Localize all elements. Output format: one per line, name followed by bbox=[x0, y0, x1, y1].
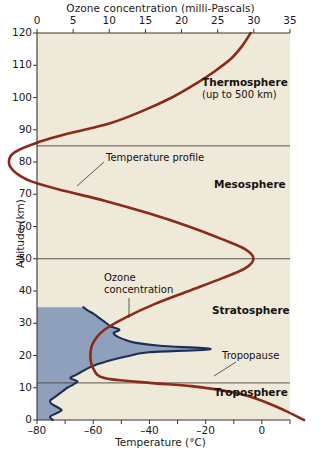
bottom-tick-label-0: –80 bbox=[23, 424, 51, 436]
left-tick-label-6: 60 bbox=[2, 220, 32, 232]
left-tick-label-0: 0 bbox=[2, 413, 32, 425]
bottom-tick-label-4: 0 bbox=[248, 424, 276, 436]
top-tick-label-1: 5 bbox=[61, 14, 85, 26]
top-tick-label-7: 35 bbox=[278, 14, 302, 26]
top-tick-label-6: 30 bbox=[242, 14, 266, 26]
left-tick-label-5: 50 bbox=[2, 252, 32, 264]
left-tick-label-1: 10 bbox=[2, 381, 32, 393]
left-tick-label-2: 20 bbox=[2, 349, 32, 361]
top-tick-label-0: 0 bbox=[25, 14, 49, 26]
layer-sublabel-thermosphere: (up to 500 km) bbox=[202, 89, 277, 100]
annotation-ozone-line2: concentration bbox=[104, 284, 173, 296]
bottom-tick-label-3: –20 bbox=[192, 424, 220, 436]
left-tick-label-3: 30 bbox=[2, 316, 32, 328]
left-tick-label-10: 100 bbox=[2, 91, 32, 103]
top-tick-label-4: 20 bbox=[170, 14, 194, 26]
layer-label-thermosphere: Thermosphere bbox=[202, 76, 288, 88]
left-tick-label-7: 70 bbox=[2, 187, 32, 199]
left-tick-label-12: 120 bbox=[2, 26, 32, 38]
top-tick-label-2: 10 bbox=[97, 14, 121, 26]
chart-figure: Ozone concentration (milli-Pascals) Temp… bbox=[0, 0, 321, 456]
left-tick-label-11: 110 bbox=[2, 58, 32, 70]
layer-label-troposphere: Troposphere bbox=[214, 386, 288, 398]
layer-label-mesosphere: Mesosphere bbox=[214, 178, 286, 190]
annotation-ozone-line1: Ozone bbox=[104, 272, 136, 284]
layer-label-stratosphere: Stratosphere bbox=[212, 304, 290, 316]
left-tick-label-9: 90 bbox=[2, 123, 32, 135]
left-tick-label-8: 80 bbox=[2, 155, 32, 167]
top-tick-label-5: 25 bbox=[206, 14, 230, 26]
bottom-tick-label-1: –60 bbox=[79, 424, 107, 436]
bottom-tick-label-2: –40 bbox=[135, 424, 163, 436]
left-tick-label-4: 40 bbox=[2, 284, 32, 296]
annotation-tropopause: Tropopause bbox=[222, 350, 279, 362]
top-tick-label-3: 15 bbox=[133, 14, 157, 26]
annotation-temperature-profile: Temperature profile bbox=[106, 152, 204, 164]
